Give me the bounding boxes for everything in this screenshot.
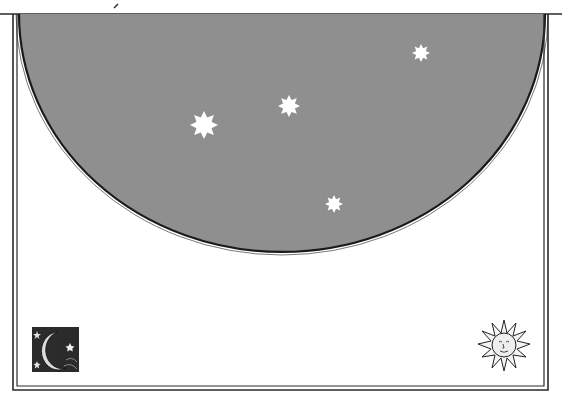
star-icon (278, 95, 300, 117)
star-icon (325, 195, 343, 213)
top-pen-stroke (114, 4, 118, 8)
moon-woodcut-icon (32, 327, 79, 372)
sun-woodcut-icon (478, 320, 530, 371)
illustration-canvas (0, 0, 562, 399)
night-sky-semicircle (16, 14, 548, 255)
star-icon (190, 111, 218, 139)
star-icon (412, 44, 430, 62)
